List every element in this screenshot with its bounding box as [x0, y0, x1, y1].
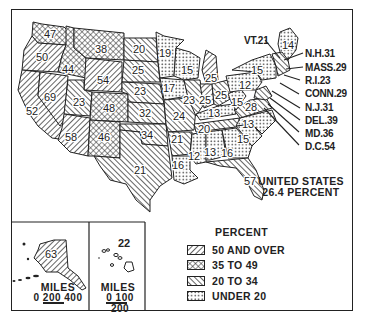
crosshatch-swatch-icon: [187, 260, 205, 270]
label-indiana: 25: [199, 94, 211, 106]
label-michigan: 25: [205, 72, 217, 84]
label-kansas: 32: [139, 107, 151, 119]
legend-label: 35 TO 49: [212, 259, 258, 271]
aleutian-islands: [13, 243, 40, 283]
us-total: UNITED STATES 26.4 PERCENT: [258, 176, 344, 198]
label-oklahoma: 34: [141, 129, 153, 141]
label-montana: 38: [95, 43, 107, 55]
label-missouri: 24: [173, 110, 185, 122]
label-virginia: 28: [245, 101, 257, 113]
hawaii-scale-values: 0 100 200: [97, 292, 143, 314]
legend-title: PERCENT: [215, 226, 285, 238]
legend-item-20-to-34: 20 TO 34: [187, 273, 285, 289]
label-northcarolina: 13: [242, 118, 254, 130]
label-southdakota: 25: [132, 64, 144, 76]
callout-dc: D.C.54: [305, 141, 336, 152]
callout-connecticut: CONN.29: [305, 88, 348, 99]
back-hatch-swatch-icon: [187, 276, 205, 286]
callout-rhode-island: R.I.23: [305, 75, 331, 86]
us-total-value: 26.4 PERCENT: [258, 187, 344, 198]
label-wisconsin: 15: [181, 64, 193, 76]
label-iowa: 17: [163, 82, 175, 94]
label-nevada: 69: [44, 91, 56, 103]
label-southcarolina: 15: [237, 133, 249, 145]
legend-item-50-and-over: 50 AND OVER: [187, 242, 285, 258]
legend: PERCENT 50 AND OVER 35 TO 49 20 TO 34 UN…: [187, 226, 285, 304]
callout-new-jersey: N.J.31: [305, 102, 334, 113]
fwd-hatch-swatch-icon: [187, 245, 205, 255]
label-minnesota: 19: [159, 47, 171, 59]
label-westvirginia: 15: [231, 96, 243, 108]
label-arizona: 58: [65, 131, 77, 143]
label-arkansas: 21: [171, 133, 183, 145]
legend-item-35-to-49: 35 TO 49: [187, 258, 285, 274]
callout-maryland: MD.36: [305, 128, 334, 139]
label-newmexico: 46: [98, 131, 110, 143]
label-ohio: 25: [215, 89, 227, 101]
label-utah: 23: [73, 96, 85, 108]
label-louisiana: 16: [172, 159, 184, 171]
label-oregon: 50: [36, 51, 48, 63]
label-newyork: 15: [251, 64, 263, 76]
legend-label: 50 AND OVER: [212, 244, 285, 256]
label-maine: 14: [282, 39, 294, 51]
callout-delaware: DEL.39: [305, 115, 338, 126]
legend-label: 20 TO 34: [212, 275, 258, 287]
label-wyoming: 54: [97, 74, 109, 86]
label-alaska: 63: [45, 248, 57, 260]
label-pennsylvania: 12: [239, 79, 251, 91]
label-illinois: 23: [183, 94, 195, 106]
label-colorado: 48: [103, 102, 115, 114]
label-florida: 57: [244, 175, 256, 187]
label-mississippi: 12: [188, 150, 200, 162]
label-idaho: 44: [62, 63, 74, 75]
label-texas: 21: [134, 164, 146, 176]
callout-new-hampshire: N.H.31: [305, 48, 336, 59]
label-tennessee: 20: [198, 123, 210, 135]
dots-swatch-icon: [187, 291, 205, 301]
label-kentucky: 13: [208, 107, 220, 119]
legend-item-under-20: UNDER 20: [187, 289, 285, 305]
label-washington: 47: [44, 28, 56, 40]
label-nebraska: 23: [134, 85, 146, 97]
label-hawaii: 22: [118, 237, 130, 249]
label-georgia: 16: [221, 147, 233, 159]
label-alabama: 13: [204, 146, 216, 158]
hawaii-islands: [102, 249, 134, 272]
callout-vermont: VT.21: [244, 35, 269, 46]
alaska-scale-values: 0 200 400: [33, 292, 83, 303]
legend-label: UNDER 20: [212, 290, 266, 302]
us-map: 47 50 52 69 44 38 54 23 48 58 46 20 25 2…: [0, 0, 368, 322]
callout-massachusetts: MASS.29: [305, 62, 347, 73]
label-california: 52: [26, 105, 38, 117]
label-northdakota: 20: [133, 43, 145, 55]
